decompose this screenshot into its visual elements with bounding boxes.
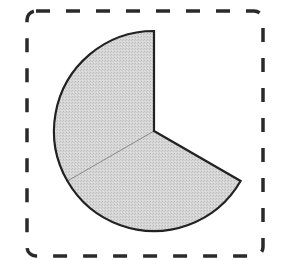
fraction-diagram [0, 0, 281, 260]
diagram-canvas [0, 0, 281, 260]
